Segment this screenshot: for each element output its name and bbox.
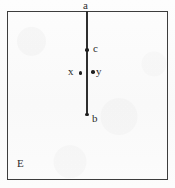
point-marker-c (85, 48, 89, 52)
point-marker-b (85, 113, 89, 117)
point-label-x: x (68, 66, 74, 77)
point-label-a: a (83, 0, 88, 11)
point-label-b: b (92, 113, 98, 124)
point-label-y: y (96, 66, 102, 77)
point-label-c: c (93, 43, 98, 54)
point-marker-x (79, 71, 83, 75)
region-label-e: E (17, 158, 24, 169)
point-marker-y (91, 70, 95, 74)
figure-canvas: a c b x y E (0, 0, 175, 188)
segment-ab (86, 11, 88, 114)
